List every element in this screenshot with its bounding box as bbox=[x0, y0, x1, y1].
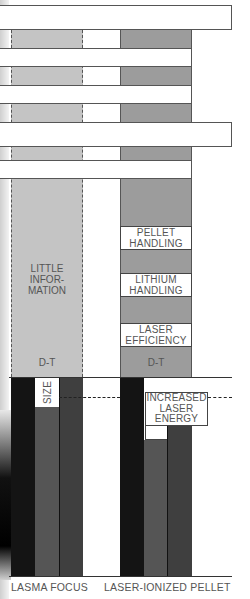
pellet-handling-line-2: HANDLING bbox=[129, 238, 182, 249]
band-1 bbox=[0, 5, 232, 30]
plasma-focus-black-bar bbox=[11, 378, 35, 576]
increased-laser-energy-line-3: ENERGY bbox=[155, 414, 198, 425]
laser-pellet-black-bar bbox=[120, 378, 144, 576]
little-information-line-1: LITTLE bbox=[11, 263, 83, 274]
laser-efficiency-line-1: LASER bbox=[139, 324, 173, 335]
pellet-handling-box: PELLET HANDLING bbox=[120, 226, 192, 250]
baseline bbox=[9, 576, 232, 577]
pellet-handling-line-1: PELLET bbox=[137, 227, 175, 238]
plasma-focus-dark-bar bbox=[59, 378, 83, 576]
laser-pellet-dt-label: D-T bbox=[120, 357, 192, 368]
band-4 bbox=[0, 122, 232, 147]
increased-laser-energy-gap bbox=[145, 426, 167, 440]
size-box: SIZE bbox=[36, 378, 58, 407]
increased-laser-energy-box: INCREASED LASER ENERGY bbox=[145, 392, 208, 426]
band-2 bbox=[0, 48, 192, 67]
laser-pellet-caption: LASER-IONIZED PELLET bbox=[104, 581, 231, 593]
laser-efficiency-line-2: EFFICIENCY bbox=[125, 335, 186, 346]
band-3 bbox=[0, 85, 192, 104]
lithium-handling-line-1: LITHIUM bbox=[135, 274, 176, 285]
page-binding-shadow bbox=[0, 410, 11, 580]
lithium-handling-line-2: HANDLING bbox=[129, 285, 182, 296]
plasma-focus-caption: LASMA FOCUS bbox=[11, 581, 88, 593]
little-information-line-3: MATION bbox=[11, 285, 83, 296]
band-5 bbox=[0, 160, 192, 179]
threshold-dashed-line-left bbox=[59, 397, 120, 398]
little-information-label: LITTLE INFOR- MATION bbox=[11, 263, 83, 296]
lithium-handling-box: LITHIUM HANDLING bbox=[120, 273, 192, 297]
laser-pellet-dark-bar bbox=[167, 426, 192, 576]
plasma-focus-upper-column bbox=[11, 30, 83, 377]
size-label: SIZE bbox=[42, 381, 53, 404]
plasma-focus-dt-label: D-T bbox=[11, 357, 83, 368]
little-information-line-2: INFOR- bbox=[11, 274, 83, 285]
laser-pellet-gray-bar bbox=[144, 440, 167, 576]
laser-efficiency-box: LASER EFFICIENCY bbox=[120, 323, 192, 347]
plasma-focus-gray-bar bbox=[35, 407, 59, 576]
threshold-dashed-line-right bbox=[208, 397, 232, 398]
